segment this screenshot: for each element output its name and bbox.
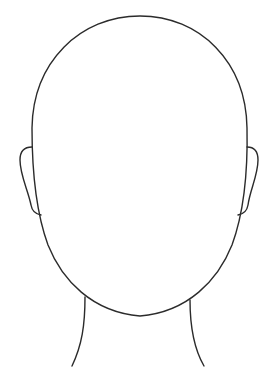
face-outline-canvas: Blank face outline template (0, 0, 270, 378)
neck-right-outline (190, 300, 204, 366)
neck-left-outline (72, 297, 85, 366)
head-outline (32, 16, 247, 316)
face-outline-drawing (0, 0, 270, 378)
right-ear-outline (238, 147, 258, 215)
